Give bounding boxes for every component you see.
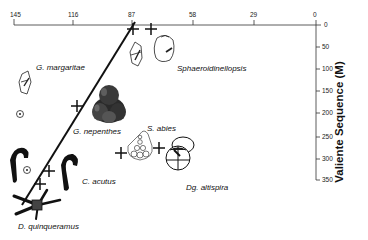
x-tick-label: 116 <box>68 11 78 18</box>
x-tick-label: 0 <box>313 11 317 18</box>
y-tick-label: 100 <box>322 65 333 72</box>
x-tick-label: 87 <box>128 11 135 18</box>
y-tick-label: 0 <box>324 21 328 28</box>
y-tick-label: 50 <box>322 43 329 50</box>
plot-area <box>0 0 368 240</box>
cross-marker <box>115 147 127 159</box>
y-axis-title: Valiente Sequence (M) <box>333 61 345 182</box>
y-tick-label: 150 <box>322 87 333 94</box>
taxon-label-c-acutus: C. acutus <box>82 177 116 186</box>
taxon-label-g-nepenthes: G. nepenthes <box>73 127 121 136</box>
x-tick-label: 145 <box>10 11 21 18</box>
sphaeroidinellopsis-fossil-icon <box>154 35 174 61</box>
g-nepenthes-fossil-icon <box>92 85 126 123</box>
dg-altispira-fossil-icon <box>166 137 194 170</box>
taxon-label-s-abies: S. abies <box>147 124 176 133</box>
d-quinqueramus-fossil-icon <box>14 190 60 219</box>
taxon-label-dg-altispira: Dg. altispira <box>186 183 228 192</box>
globorotalia-fossil-icon <box>130 42 142 66</box>
y-tick-label: 200 <box>322 109 333 116</box>
g-margaritae-fossil-icon <box>19 71 31 94</box>
cross-marker <box>153 142 165 154</box>
x-axis <box>14 19 316 25</box>
taxon-label-d-quinqueramus: D. quinqueramus <box>18 222 79 231</box>
cross-marker <box>34 178 46 190</box>
x-tick-label: 58 <box>189 11 196 18</box>
s-abies-fossil-icon <box>128 131 153 160</box>
circle-dot-marker <box>24 167 31 174</box>
y-tick-label: 300 <box>322 155 333 162</box>
y-tick-label: 350 <box>322 176 333 183</box>
circle-dot-marker <box>17 111 24 118</box>
taxon-label-g-margaritae: G. margaritae <box>36 63 85 72</box>
x-tick-label: 29 <box>250 11 257 18</box>
y-axis <box>316 25 321 180</box>
biostratigraphy-diagram: 145 116 87 58 29 0 0 50 100 150 200 250 … <box>0 0 368 240</box>
y-tick-label: 250 <box>322 133 333 140</box>
taxon-label-sphaeroidinellopsis: Sphaeroidinellopsis <box>177 64 246 73</box>
